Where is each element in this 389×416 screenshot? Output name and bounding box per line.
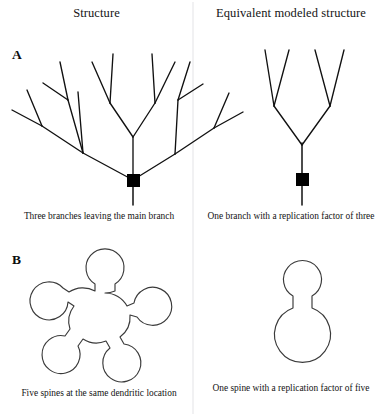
spine-single-outline (275, 261, 331, 363)
caption-panel-a-left: Three branches leaving the main branch (6, 211, 192, 222)
figure-root: Structure Equivalent modeled structure A… (0, 0, 389, 416)
spine-single-modeled (275, 261, 331, 363)
branch-point-marker-a-right (296, 173, 309, 186)
branch-point-marker-a-left (127, 174, 140, 187)
dendritic-tree-full (12, 54, 243, 205)
spine-cluster-outline (30, 249, 172, 382)
dendritic-tree-modeled (265, 50, 344, 205)
caption-panel-b-left: Five spines at the same dendritic locati… (6, 388, 192, 399)
caption-panel-b-right: One spine with a replication factor of f… (196, 383, 386, 394)
caption-panel-a-right: One branch with a replication factor of … (196, 211, 386, 222)
spine-cluster-five (30, 249, 172, 382)
figure-canvas (0, 0, 389, 416)
